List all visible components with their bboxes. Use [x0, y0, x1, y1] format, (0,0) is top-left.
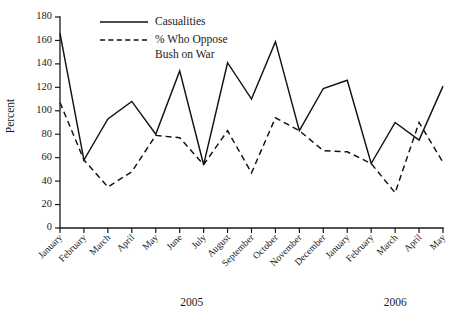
x-tick-label: July [189, 231, 208, 250]
legend-label-casualties: Casualities [155, 15, 206, 27]
x-tick-label: March [374, 231, 400, 257]
year-label: 2005 [180, 296, 203, 308]
legend-label-oppose-line1: % Who Oppose [155, 33, 228, 46]
series-line-oppose [60, 103, 443, 193]
y-tick-label: 160 [36, 34, 52, 45]
y-tick-label: 100 [36, 104, 52, 115]
year-group-labels: 20052006 [180, 296, 407, 308]
series-line-casualties [60, 33, 443, 164]
x-tick-label: April [401, 231, 423, 253]
x-tick-label: April [114, 231, 136, 253]
line-chart: 020406080100120140160180 JanuaryFebruary… [0, 0, 456, 325]
y-axis: 020406080100120140160180 [36, 10, 443, 232]
y-tick-label: 0 [47, 221, 52, 232]
y-tick-label: 60 [42, 151, 53, 162]
y-tick-label: 140 [36, 57, 52, 68]
legend-label-oppose-line2: Bush on War [155, 48, 215, 60]
y-tick-label: 80 [42, 128, 53, 139]
y-tick-label: 20 [42, 198, 53, 209]
x-tick-label: June [164, 232, 184, 252]
x-tick-label: March [87, 231, 113, 257]
x-tick-label: May [427, 231, 447, 251]
chart-legend: Casualities% Who OpposeBush on War [100, 15, 228, 60]
y-tick-label: 120 [36, 81, 52, 92]
y-axis-title: Percent [4, 98, 16, 133]
x-axis: JanuaryFebruaryMarchAprilMayJuneJulyAugu… [36, 228, 448, 268]
y-axis-label: Percent [4, 98, 16, 133]
y-tick-label: 180 [36, 10, 52, 21]
x-tick-label: May [140, 231, 160, 251]
year-label: 2006 [384, 296, 407, 308]
chart-canvas: 020406080100120140160180 JanuaryFebruary… [0, 0, 456, 325]
y-tick-label: 40 [42, 175, 53, 186]
axis-lines [60, 17, 443, 228]
data-series-group [60, 33, 443, 192]
